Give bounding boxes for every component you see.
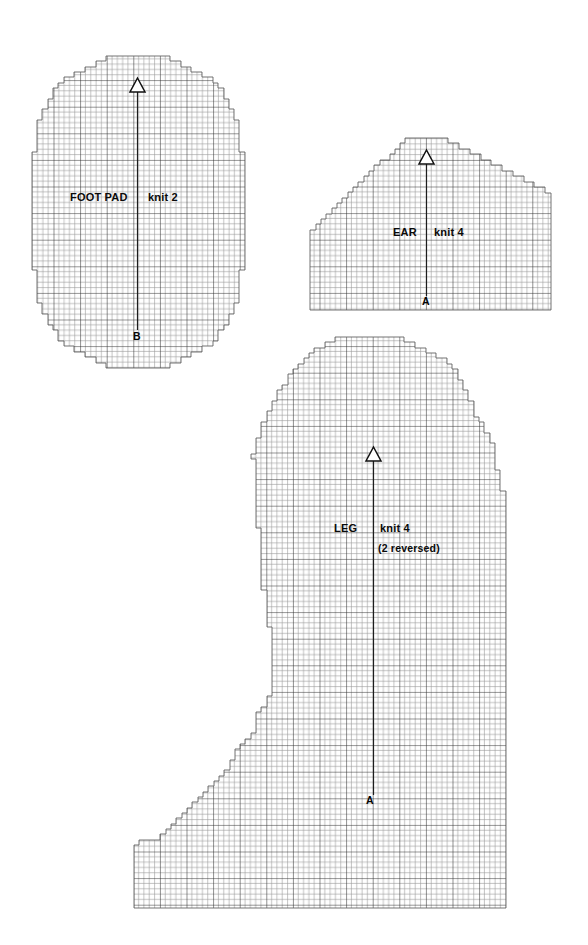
leg-label: LEG (334, 522, 357, 534)
ear-marker-a: A (422, 295, 430, 307)
leg-sub-label: (2 reversed) (378, 542, 440, 554)
ear-count: knit 4 (434, 226, 465, 238)
foot-pad-count: knit 2 (148, 191, 178, 203)
knitting-chart-canvas: FOOT PAD knit 2 B EAR knit 4 A LEG knit … (0, 0, 588, 945)
foot-pad-label: FOOT PAD (70, 191, 128, 203)
chart-sheet: FOOT PAD knit 2 B EAR knit 4 A LEG knit … (0, 0, 588, 945)
leg-marker-a: A (366, 794, 374, 806)
leg-count: knit 4 (380, 522, 411, 534)
ear-label: EAR (393, 226, 417, 238)
foot-pad-marker-b: B (133, 330, 141, 342)
